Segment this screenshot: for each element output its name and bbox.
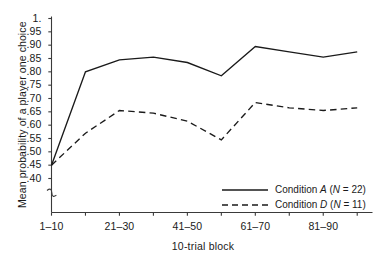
- legend-label-d-letter: D: [320, 199, 327, 210]
- legend-item-condition-a: Condition A (N = 22): [222, 182, 366, 197]
- legend-label-condition-a: Condition A (N = 22): [275, 184, 366, 195]
- legend-label-d-n: (N = 11): [330, 199, 366, 210]
- legend-label-a-main: Condition: [275, 184, 317, 195]
- chart-legend: Condition A (N = 22) Condition D (N = 11…: [222, 182, 366, 212]
- x-tick-label: 81–90: [308, 220, 338, 232]
- legend-label-d-main: Condition: [275, 199, 317, 210]
- chart-figure: 1..95.90.85.80.75.70.65.60.55.50.45.40 1…: [0, 0, 381, 264]
- legend-item-condition-d: Condition D (N = 11): [222, 197, 366, 212]
- x-axis-title: 10-trial block: [138, 240, 268, 252]
- legend-label-a-letter: A: [320, 184, 327, 195]
- x-tick-label: 21–30: [105, 220, 135, 232]
- series-line-condition-a: [52, 47, 358, 166]
- legend-swatch-solid-icon: [222, 185, 268, 195]
- y-axis-title: Mean probability of a player one choice: [16, 28, 28, 208]
- x-tick-label: 61–70: [240, 220, 270, 232]
- x-tick-label: 1–10: [40, 220, 64, 232]
- legend-label-condition-d: Condition D (N = 11): [275, 199, 366, 210]
- legend-swatch-dashed-icon: [222, 200, 268, 210]
- legend-label-a-n: (N = 22): [330, 184, 366, 195]
- series-line-condition-d: [52, 103, 358, 166]
- data-series-group: [52, 47, 358, 166]
- x-tick-label: 41–50: [173, 220, 203, 232]
